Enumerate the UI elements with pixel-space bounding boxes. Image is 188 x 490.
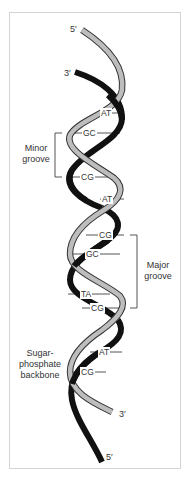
base-pair-label: CG (80, 367, 95, 377)
base-pair-label: GC (85, 249, 100, 259)
base-pair-label: AT (100, 108, 112, 118)
end-label-bottom-3prime: 3′ (119, 409, 126, 419)
base-pair-label: GC (82, 128, 97, 138)
base-pair-label: TA (80, 289, 92, 299)
base-pair-label: CG (80, 172, 95, 182)
major-groove-label: Major groove (140, 260, 176, 282)
minor-groove-label: Minor groove (18, 143, 54, 165)
dna-double-helix (0, 0, 188, 490)
major-groove-bracket (130, 235, 137, 308)
base-pair-label: AT (98, 347, 110, 357)
base-pair-label: AT (101, 194, 113, 204)
base-pair-label: CG (90, 303, 105, 313)
base-pair-label: CG (98, 230, 113, 240)
minor-groove-bracket (55, 133, 62, 177)
end-label-top-5prime: 5′ (70, 24, 77, 34)
end-label-bottom-5prime: 5′ (106, 452, 113, 462)
sugar-phosphate-backbone-label: Sugar- phosphate backbone (16, 348, 64, 381)
end-label-top-3prime: 3′ (64, 68, 71, 78)
